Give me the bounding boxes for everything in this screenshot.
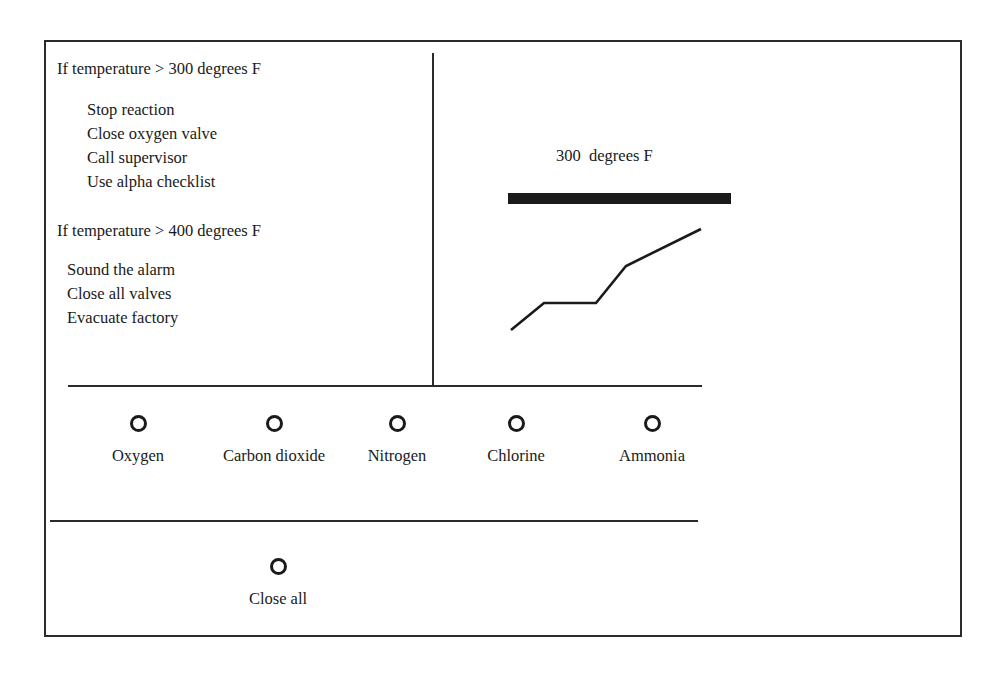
rule-heading-300: If temperature > 300 degrees F bbox=[57, 56, 417, 82]
rule-block-300: If temperature > 300 degrees F Stop reac… bbox=[57, 56, 417, 194]
rule-action-item: Close oxygen valve bbox=[87, 122, 417, 146]
radio-option-chlorine[interactable]: Chlorine bbox=[456, 415, 576, 467]
radio-circle-icon[interactable] bbox=[389, 415, 406, 432]
rule-action-item: Call supervisor bbox=[87, 146, 417, 170]
temperature-trend-line bbox=[511, 229, 701, 330]
rule-block-400: If temperature > 400 degrees F Sound the… bbox=[57, 218, 417, 330]
radio-label: Nitrogen bbox=[337, 445, 457, 467]
radio-circle-icon[interactable] bbox=[508, 415, 525, 432]
divider-upper bbox=[68, 385, 702, 387]
rule-action-item: Stop reaction bbox=[87, 98, 417, 122]
control-panel: If temperature > 300 degrees F Stop reac… bbox=[44, 40, 962, 637]
radio-option-ammonia[interactable]: Ammonia bbox=[592, 415, 712, 467]
radio-option-oxygen[interactable]: Oxygen bbox=[78, 415, 198, 467]
radio-circle-icon[interactable] bbox=[270, 558, 287, 575]
rule-actions-300: Stop reaction Close oxygen valve Call su… bbox=[57, 82, 417, 194]
divider-lower bbox=[50, 520, 698, 522]
radio-label: Chlorine bbox=[456, 445, 576, 467]
threshold-bar bbox=[508, 193, 731, 204]
radio-option-nitrogen[interactable]: Nitrogen bbox=[337, 415, 457, 467]
rules-list: If temperature > 300 degrees F Stop reac… bbox=[57, 56, 417, 334]
radio-circle-icon[interactable] bbox=[644, 415, 661, 432]
chart-plot-area bbox=[446, 52, 946, 382]
rule-action-item: Close all valves bbox=[67, 282, 417, 306]
close-all-label: Close all bbox=[218, 588, 338, 610]
radio-label: Oxygen bbox=[78, 445, 198, 467]
upper-region: If temperature > 300 degrees F Stop reac… bbox=[46, 42, 960, 385]
radio-label: Ammonia bbox=[592, 445, 712, 467]
radio-label: Carbon dioxide bbox=[214, 445, 334, 467]
radio-option-carbon-dioxide[interactable]: Carbon dioxide bbox=[214, 415, 334, 467]
temperature-chart: 300 degrees F bbox=[446, 52, 946, 382]
rule-actions-400: Sound the alarm Close all valves Evacuat… bbox=[57, 244, 417, 330]
rule-action-item: Use alpha checklist bbox=[87, 170, 417, 194]
rule-heading-400: If temperature > 400 degrees F bbox=[57, 218, 417, 244]
rule-action-item: Sound the alarm bbox=[67, 258, 417, 282]
close-all-radio-option[interactable]: Close all bbox=[218, 558, 338, 610]
rule-action-item: Evacuate factory bbox=[67, 306, 417, 330]
gas-valve-radio-group: Oxygen Carbon dioxide Nitrogen Chlorine … bbox=[46, 415, 960, 515]
radio-circle-icon[interactable] bbox=[266, 415, 283, 432]
vertical-divider bbox=[432, 53, 434, 385]
radio-circle-icon[interactable] bbox=[130, 415, 147, 432]
